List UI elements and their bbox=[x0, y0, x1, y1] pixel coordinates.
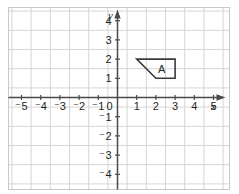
plot-border bbox=[9, 8, 230, 190]
shape-label-a: A bbox=[158, 63, 166, 75]
x-tick-label: ⁻5 bbox=[15, 100, 27, 112]
coordinate-grid-svg: ⁻5⁻4⁻3⁻2⁻112345 4321⁻1⁻2⁻3⁻4 0 xy A bbox=[0, 0, 239, 194]
x-axis-tick-labels: ⁻5⁻4⁻3⁻2⁻112345 bbox=[15, 100, 216, 112]
y-axis-name-label: y bbox=[107, 9, 113, 21]
x-tick-label: 2 bbox=[153, 100, 159, 112]
origin-label: 0 bbox=[106, 100, 112, 112]
x-tick-label: ⁻4 bbox=[35, 100, 47, 112]
grid-border bbox=[9, 8, 230, 190]
y-tick-label: 1 bbox=[105, 72, 111, 84]
y-tick-label: 3 bbox=[105, 34, 111, 46]
origin-zero-label: 0 bbox=[106, 100, 112, 112]
y-tick-label: ⁻3 bbox=[99, 149, 111, 161]
x-tick-label: 3 bbox=[172, 100, 178, 112]
y-tick-label: ⁻4 bbox=[99, 168, 111, 180]
x-tick-label: 1 bbox=[134, 100, 140, 112]
y-tick-label: 2 bbox=[105, 53, 111, 65]
x-axis-name-label: x bbox=[210, 100, 216, 112]
x-tick-label: ⁻3 bbox=[54, 100, 66, 112]
x-axis-arrowhead bbox=[217, 94, 226, 100]
y-tick-label: ⁻2 bbox=[99, 130, 111, 142]
x-tick-label: 4 bbox=[191, 100, 197, 112]
x-tick-label: ⁻2 bbox=[73, 100, 85, 112]
grid-lines bbox=[9, 8, 230, 190]
coordinate-plane-figure: ⁻5⁻4⁻3⁻2⁻112345 4321⁻1⁻2⁻3⁻4 0 xy A bbox=[0, 0, 239, 194]
y-tick-label: ⁻1 bbox=[99, 111, 111, 123]
axis-name-labels: xy bbox=[107, 9, 216, 112]
